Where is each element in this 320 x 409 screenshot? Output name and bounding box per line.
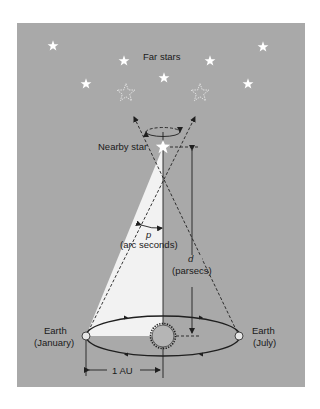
d-symbol: d: [188, 253, 194, 264]
earth-july-icon: [235, 332, 243, 340]
p-unit-label: (arc seconds): [120, 239, 178, 250]
earth-january-icon: [82, 332, 90, 340]
earth-january-label: Earth: [44, 325, 67, 336]
nearby-star-label: Nearby star: [98, 141, 147, 152]
earth-july-sublabel: (July): [253, 337, 276, 348]
au-label: 1 AU: [112, 365, 133, 376]
earth-january-sublabel: (January): [34, 337, 74, 348]
far-stars-label: Far stars: [143, 51, 181, 62]
d-unit-label: (parsecs): [172, 265, 212, 276]
earth-july-label: Earth: [252, 325, 275, 336]
parallax-diagram: Far stars Nearby star p (arc seconds): [0, 0, 320, 409]
